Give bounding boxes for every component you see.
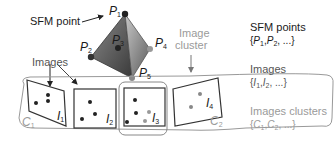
image-i3-label: I3 [152, 112, 159, 125]
point-p5-label: P5 [139, 67, 151, 80]
legend-clusters-title: Images clusters [250, 105, 327, 118]
legend-sfm-points: SFM points {P1,P2, ...} [250, 21, 306, 50]
point-p1 [122, 11, 128, 17]
cluster-c2-outline [119, 82, 167, 135]
image-cluster-label-line1: Image [179, 28, 210, 39]
point-p3-label: P3 [112, 34, 124, 47]
image-cluster-label-line2: cluster [175, 40, 207, 51]
legend-images: Images {I1,I2, ...} [250, 63, 287, 92]
cluster-c2-label: C2 [210, 115, 223, 128]
legend-clusters-set: {C1,C2, ...} [250, 118, 327, 134]
legend-clusters: Images clusters {C1,C2, ...} [250, 105, 327, 134]
point-p2-label: P2 [80, 41, 92, 54]
point-p4-label: P4 [155, 37, 167, 50]
point-p1-label: P1 [109, 5, 121, 18]
point-p2 [88, 54, 94, 60]
cluster-c1-label: C1 [22, 116, 35, 129]
image-i4-label: I4 [206, 97, 213, 110]
legend-images-title: Images [250, 63, 287, 76]
legend-sfm-points-title: SFM points [250, 21, 306, 34]
legend-images-set: {I1,I2, ...} [250, 76, 287, 92]
images-label: Images [32, 57, 68, 68]
sfm-arrow [82, 16, 103, 22]
image-i1-label: I1 [57, 110, 64, 123]
legend-sfm-points-set: {P1,P2, ...} [250, 34, 306, 50]
image-i2-label: I2 [106, 113, 113, 126]
sfm-point-label: SFM point [30, 16, 80, 27]
point-p4 [147, 46, 153, 52]
